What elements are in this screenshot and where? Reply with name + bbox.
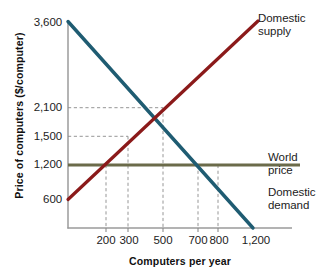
domestic-demand-label-line2: demand	[268, 199, 316, 212]
domestic-supply-label-line2: supply	[258, 25, 306, 38]
domestic-demand-label: Domestic demand	[268, 186, 316, 212]
supply-demand-chart: 3,600 2,100 1,500 1,200 600 200 300 500 …	[0, 0, 329, 279]
domestic-supply-label: Domestic supply	[258, 12, 306, 38]
x-tick-label-800: 800	[202, 234, 236, 247]
world-price-label-line2: price	[268, 164, 298, 177]
x-axis-title: Computers per year	[100, 256, 260, 268]
world-price-label-line1: World	[268, 151, 298, 164]
x-tick-label-500: 500	[146, 234, 180, 247]
x-tick-label-300: 300	[112, 234, 146, 247]
domestic-supply-label-line1: Domestic	[258, 12, 306, 25]
domestic-demand-label-line1: Domestic	[268, 186, 316, 199]
world-price-label: World price	[268, 151, 298, 177]
y-axis-title: Price of computers ($/computer)	[14, 13, 26, 218]
x-tick-label-1200: 1,200	[234, 234, 278, 247]
